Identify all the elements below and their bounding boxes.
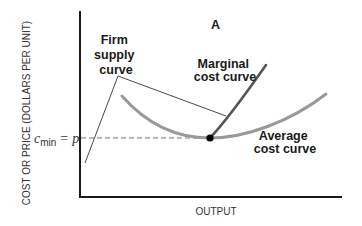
firm-supply-label: Firm supply curve <box>94 33 138 77</box>
min-point-dot <box>206 134 213 141</box>
panel-label: A <box>211 18 220 32</box>
marginal-cost-label: Marginal cost curve <box>194 57 257 84</box>
average-cost-label: Average cost curve <box>254 129 317 156</box>
firm-supply-leader <box>85 76 226 163</box>
y-axis-label: COST OR PRICE (DOLLARS PER UNIT) <box>21 21 32 205</box>
cost-curve-diagram: A Firm supply curve Marginal cost curve … <box>0 0 362 226</box>
price-label: cmin= p <box>34 131 79 148</box>
x-axis-label: OUTPUT <box>195 206 236 217</box>
